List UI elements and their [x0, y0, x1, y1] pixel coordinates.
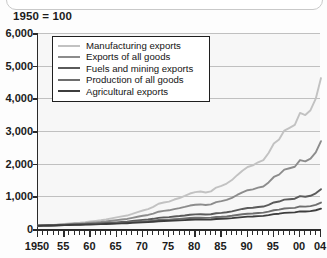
x-axis-tick-minor [283, 231, 284, 235]
x-axis-tick-minor [252, 231, 253, 235]
legend-swatch-icon [58, 79, 80, 81]
x-axis-label: 75 [162, 240, 174, 252]
legend-swatch-icon [58, 56, 80, 58]
y-axis-tick [33, 164, 38, 166]
x-axis-tick-major [273, 231, 274, 237]
x-axis-tick-major [194, 231, 195, 237]
x-axis-tick-minor [110, 231, 111, 235]
x-axis-tick-minor [137, 231, 138, 235]
y-axis-label: 3,000 [5, 125, 33, 137]
legend-item[interactable]: Production of all goods [58, 74, 204, 85]
x-axis-tick-minor [241, 231, 242, 235]
x-axis-tick-minor [121, 231, 122, 235]
y-axis-label: 1,000 [5, 190, 33, 202]
x-axis-label: 65 [109, 240, 121, 252]
x-axis-tick-minor [257, 231, 258, 235]
x-axis-tick-major [247, 231, 248, 237]
x-axis-label: 04 [314, 240, 326, 252]
legend-item[interactable]: Fuels and mining exports [58, 63, 204, 74]
x-axis-label: 00 [293, 240, 305, 252]
x-axis-tick-major [37, 231, 38, 237]
legend-item[interactable]: Exports of all goods [58, 51, 204, 62]
x-axis-tick-minor [42, 231, 43, 235]
x-axis-tick-minor [100, 231, 101, 235]
x-axis-tick-major [63, 231, 64, 237]
chart-legend: Manufacturing exportsExports of all good… [52, 36, 210, 102]
x-axis-tick-minor [294, 231, 295, 235]
legend-swatch-icon [58, 90, 80, 92]
x-axis-tick-major [116, 231, 117, 237]
x-axis-tick-minor [278, 231, 279, 235]
x-axis-tick-minor [310, 231, 311, 235]
x-axis-tick-minor [95, 231, 96, 235]
legend-item-label: Manufacturing exports [86, 40, 181, 51]
x-axis-label: 85 [214, 240, 226, 252]
x-axis-tick-minor [268, 231, 269, 235]
legend-item-label: Fuels and mining exports [86, 63, 193, 74]
legend-item-label: Production of all goods [86, 74, 184, 85]
x-axis-tick-major [320, 231, 321, 237]
y-axis-tick [33, 196, 38, 198]
y-axis-tick [33, 98, 38, 100]
legend-item[interactable]: Agricultural exports [58, 86, 204, 97]
legend-item-label: Exports of all goods [86, 51, 170, 62]
y-axis-label: 5,000 [5, 60, 33, 72]
y-axis-label: 6,000 [5, 27, 33, 39]
x-axis-tick-minor [158, 231, 159, 235]
x-axis-tick-minor [289, 231, 290, 235]
x-axis-tick-minor [199, 231, 200, 235]
x-axis-tick-minor [53, 231, 54, 235]
x-axis-tick-minor [68, 231, 69, 235]
x-axis-tick-minor [47, 231, 48, 235]
x-axis-tick-minor [79, 231, 80, 235]
x-axis-tick-major [168, 231, 169, 237]
panel-top-border [6, 0, 323, 10]
x-axis-tick-minor [84, 231, 85, 235]
x-axis-label: 60 [83, 240, 95, 252]
x-axis-label: 80 [188, 240, 200, 252]
x-axis-tick-minor [215, 231, 216, 235]
x-axis-tick-minor [105, 231, 106, 235]
x-axis-tick-minor [184, 231, 185, 235]
x-axis-tick-minor [58, 231, 59, 235]
x-axis-tick-minor [173, 231, 174, 235]
y-axis-label: 2,000 [5, 158, 33, 170]
chart-root: 1950 = 100 01,0002,0003,0004,0005,0006,0… [0, 0, 327, 258]
x-axis-tick-minor [179, 231, 180, 235]
x-axis-label: 90 [241, 240, 253, 252]
x-axis-tick-minor [74, 231, 75, 235]
x-axis-tick-minor [126, 231, 127, 235]
y-axis-label: 4,000 [5, 92, 33, 104]
y-axis-labels: 01,0002,0003,0004,0005,0006,000 [0, 0, 33, 258]
x-axis-tick-major [142, 231, 143, 237]
x-axis-tick-minor [131, 231, 132, 235]
x-axis-tick-minor [236, 231, 237, 235]
x-axis-tick-minor [147, 231, 148, 235]
x-axis-tick-minor [210, 231, 211, 235]
x-axis-label: 1950 [25, 240, 49, 252]
x-axis-tick-minor [205, 231, 206, 235]
x-axis-tick-minor [189, 231, 190, 235]
legend-swatch-icon [58, 67, 80, 69]
legend-item[interactable]: Manufacturing exports [58, 40, 204, 51]
x-axis-tick-major [299, 231, 300, 237]
x-axis-label: 95 [267, 240, 279, 252]
legend-swatch-icon [58, 45, 80, 47]
x-axis-tick-minor [262, 231, 263, 235]
y-axis-tick [33, 131, 38, 133]
x-axis-tick-major [89, 231, 90, 237]
x-axis-label: 70 [136, 240, 148, 252]
x-axis-tick-minor [152, 231, 153, 235]
y-axis-tick [33, 33, 38, 35]
x-axis-label: 55 [57, 240, 69, 252]
legend-item-label: Agricultural exports [86, 86, 168, 97]
x-axis-tick-minor [231, 231, 232, 235]
x-axis-tick-minor [304, 231, 305, 235]
y-axis-tick [33, 66, 38, 68]
x-axis-tick-minor [226, 231, 227, 235]
x-axis-tick-major [220, 231, 221, 237]
x-axis-tick-minor [315, 231, 316, 235]
x-axis-tick-minor [163, 231, 164, 235]
